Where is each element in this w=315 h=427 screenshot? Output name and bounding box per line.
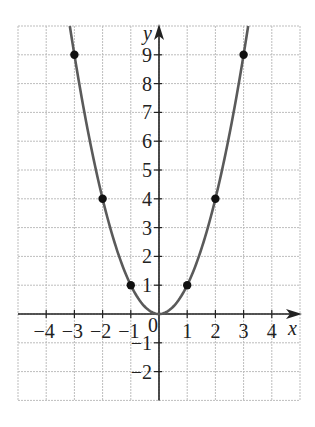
data-point	[98, 195, 106, 203]
x-tick-label: 2	[210, 320, 220, 342]
y-tick-label: 9	[142, 44, 152, 66]
y-tick-label: 6	[142, 130, 152, 152]
x-tick-label: 3	[239, 320, 249, 342]
data-point	[239, 51, 247, 59]
axes	[18, 24, 302, 400]
y-tick-label: 3	[142, 217, 152, 239]
y-tick-label: 5	[142, 159, 152, 181]
data-point	[70, 51, 78, 59]
x-tick-label: −3	[62, 320, 83, 342]
data-point	[211, 195, 219, 203]
parabola-chart: −4−3−2−101234−2−1123456789xy	[0, 0, 315, 427]
tick-labels: −4−3−2−101234−2−1123456789xy	[34, 22, 297, 383]
y-tick-label: 1	[142, 274, 152, 296]
y-tick-label: 7	[142, 101, 152, 123]
x-tick-label: 1	[182, 320, 192, 342]
y-tick-label: −2	[131, 361, 152, 383]
x-tick-label: −2	[90, 320, 111, 342]
data-point	[183, 281, 191, 289]
y-tick-label: −1	[131, 332, 152, 354]
y-axis-label: y	[141, 22, 152, 45]
y-tick-label: 4	[142, 188, 152, 210]
y-tick-label: 2	[142, 245, 152, 267]
x-tick-label: 4	[267, 320, 277, 342]
x-tick-label: −4	[34, 320, 55, 342]
x-axis-label: x	[287, 317, 297, 339]
y-tick-label: 8	[142, 73, 152, 95]
data-point	[127, 281, 135, 289]
